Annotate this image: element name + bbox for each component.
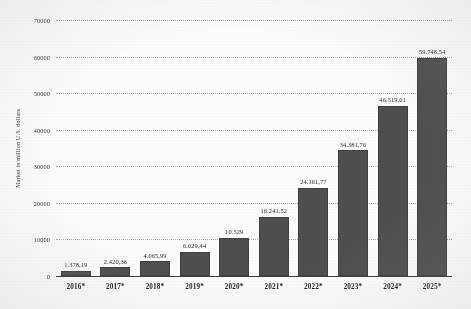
bar[interactable] [140, 261, 170, 276]
x-axis-ticks: 2016*2017*2018*2019*2020*2021*2022*2023*… [56, 283, 452, 297]
y-axis-tick-label: 10000 [34, 236, 50, 243]
x-axis-tick-label: 2025* [412, 283, 452, 291]
bar[interactable] [100, 267, 130, 276]
bar-value-label: 1.378,19 [64, 261, 87, 268]
bar[interactable] [338, 150, 368, 276]
x-axis-tick-label: 2017* [96, 283, 136, 291]
y-axis-title-label: Market in million U.S. dollars [15, 108, 22, 187]
bar-value-label: 10.529 [225, 228, 243, 235]
bar-value-label: 46.519,61 [379, 96, 405, 103]
bar[interactable] [298, 188, 328, 276]
bar-value-label: 59.748,54 [419, 48, 445, 55]
x-axis-tick-label: 2020* [214, 283, 254, 291]
bar[interactable] [259, 217, 289, 276]
bar-slot: 24.161,77 [294, 20, 334, 276]
bar[interactable] [219, 238, 249, 277]
y-axis-tick-label: 70000 [34, 17, 50, 24]
bar-value-label: 2.420,36 [104, 258, 127, 265]
bar-slot: 34.381,76 [333, 20, 373, 276]
plot-area: 700006000050000400003000020000100000 1.3… [56, 20, 452, 276]
y-axis-tick-label: 30000 [34, 163, 50, 170]
axis-baseline [56, 276, 452, 277]
bar-slot: 46.519,61 [373, 20, 413, 276]
y-axis-tick-label: 40000 [34, 126, 50, 133]
bar-series: 1.378,192.420,364.065,996.629,4410.52916… [56, 20, 452, 276]
bar-value-label: 34.381,76 [340, 141, 366, 148]
bar-value-label: 16.241,52 [261, 207, 287, 214]
bar-slot: 16.241,52 [254, 20, 294, 276]
y-axis-tick-label: 50000 [34, 90, 50, 97]
x-axis-tick-label: 2019* [175, 283, 215, 291]
bar-value-label: 6.629,44 [183, 242, 206, 249]
bar[interactable] [61, 271, 91, 276]
bar-value-label: 24.161,77 [300, 178, 326, 185]
bar-slot: 6.629,44 [175, 20, 215, 276]
x-axis-tick-label: 2018* [135, 283, 175, 291]
bar-slot: 1.378,19 [56, 20, 96, 276]
bar[interactable] [378, 106, 408, 276]
y-axis-title: Market in million U.S. dollars [12, 20, 24, 276]
x-axis-tick-label: 2023* [333, 283, 373, 291]
y-axis-tick-label: 0 [47, 273, 50, 280]
x-axis-tick-label: 2024* [373, 283, 413, 291]
x-axis-tick-label: 2016* [56, 283, 96, 291]
bar-slot: 59.748,54 [412, 20, 452, 276]
bar-slot: 2.420,36 [96, 20, 136, 276]
x-axis-tick-label: 2022* [294, 283, 334, 291]
bar-value-label: 4.065,99 [143, 252, 166, 259]
bar-slot: 10.529 [214, 20, 254, 276]
bar-slot: 4.065,99 [135, 20, 175, 276]
bar-chart-figure: Market in million U.S. dollars 700006000… [0, 0, 471, 309]
y-axis-tick-label: 60000 [34, 53, 50, 60]
bar[interactable] [180, 252, 210, 276]
x-axis-tick-label: 2021* [254, 283, 294, 291]
y-axis-tick-label: 20000 [34, 199, 50, 206]
bar[interactable] [417, 58, 447, 277]
